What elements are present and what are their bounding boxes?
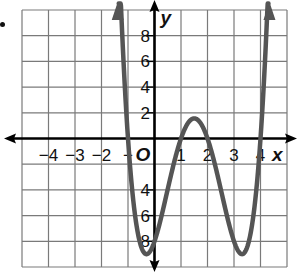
y-tick-label: 4 <box>141 78 150 97</box>
y-axis-label: y <box>160 7 173 28</box>
y-tick-label: 2 <box>141 104 150 123</box>
x-axis-label: x <box>271 144 284 165</box>
x-tick-label: 3 <box>229 146 238 165</box>
function-graph: −4−3−2−12348642468 x y O <box>0 0 299 278</box>
y-tick-label: 4 <box>141 181 150 200</box>
origin-label: O <box>136 144 151 165</box>
x-tick-label: −3 <box>65 146 84 165</box>
y-tick-label: 8 <box>141 27 150 46</box>
y-tick-label: 6 <box>141 52 150 71</box>
x-tick-label: −4 <box>39 146 58 165</box>
x-tick-label: −2 <box>92 146 111 165</box>
curve-arrows <box>112 2 276 20</box>
y-tick-label: 6 <box>141 207 150 226</box>
